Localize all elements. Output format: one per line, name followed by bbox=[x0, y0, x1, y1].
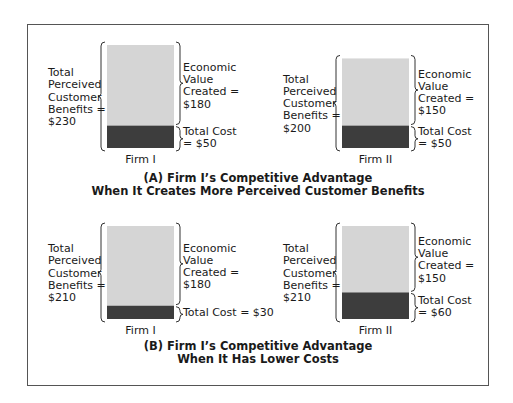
panel-b-firm-2-benefits-label: Customer bbox=[283, 267, 337, 280]
panel-b-firm-2-total-cost-label: = $60 bbox=[418, 306, 452, 319]
panel-a-caption-line1: (A) Firm I’s Competitive Advantage bbox=[144, 171, 373, 185]
panel-b-firm-1-value-created-label: Created = bbox=[183, 266, 239, 279]
panel-a-firm-2-value-created-label: $150 bbox=[418, 104, 446, 117]
panel-b-firm-2-value-created-bar bbox=[342, 226, 409, 292]
panel-b-firm-1-benefits-label: Benefits = bbox=[48, 279, 106, 292]
panel-b-firm-2-value-created-label: Value bbox=[418, 247, 448, 260]
panel-b-firm-2-value-created-label: Economic bbox=[418, 235, 471, 248]
panel-b-firm-2-value-created-label: Created = bbox=[418, 259, 474, 272]
panel-b-firm-1-benefits-label: $210 bbox=[48, 291, 76, 304]
panel-a-firm-2-value-brace bbox=[411, 55, 418, 124]
panel-a-firm-1-label: Firm I bbox=[125, 153, 155, 166]
panel-a-firm-1-benefits-label: $230 bbox=[48, 115, 76, 128]
panel-b-firm-2-value-created-label: $150 bbox=[418, 272, 446, 285]
panel-a-firm-1-total-cost-label: = $50 bbox=[183, 137, 217, 150]
panel-a-firm-1-total-cost-bar bbox=[107, 126, 174, 148]
panel-a-firm-2-total-cost-label: Total Cost bbox=[417, 125, 472, 138]
panel-a-firm-1-value-created-label: Economic bbox=[183, 61, 236, 74]
panel-b-firm-2-benefits-label: Perceived bbox=[283, 254, 336, 267]
panel-a-firm-2-total-cost-label: = $50 bbox=[418, 137, 452, 150]
panel-b-firm-2-benefits-label: $210 bbox=[283, 291, 311, 304]
panel-b-caption-line1: (B) Firm I’s Competitive Advantage bbox=[144, 339, 373, 353]
panel-a-firm-1-value-created-label: Created = bbox=[183, 85, 239, 98]
panel-a-firm-2-label: Firm II bbox=[359, 153, 393, 166]
panel-b-firm-1-value-created-label: $180 bbox=[183, 278, 211, 291]
panel-b-firm-1-total-cost-label: Total Cost = $30 bbox=[182, 306, 274, 319]
panel-b-firm-2-benefits-label: Total bbox=[282, 242, 309, 255]
panel-a-firm-1-benefits-label: Total bbox=[47, 66, 74, 79]
panel-b-firm-1-benefits-label: Perceived bbox=[48, 254, 101, 267]
panel-b-firm-1-benefits-label: Total bbox=[47, 242, 74, 255]
panel-a-firm-2-cost-brace bbox=[411, 127, 418, 151]
panel-b-caption-line2: When It Has Lower Costs bbox=[177, 352, 339, 366]
panel-b-firm-2-value-brace bbox=[411, 223, 418, 291]
panel-a-firm-2-value-created-bar bbox=[342, 58, 409, 125]
panel-b-firm-1-cost-brace bbox=[176, 307, 183, 322]
panel-a-firm-2-benefits-label: Total bbox=[282, 73, 309, 86]
panel-a-firm-1-benefits-label: Benefits = bbox=[48, 103, 106, 116]
panel-b-firm-2-total-cost-bar bbox=[342, 292, 409, 319]
panel-a-firm-2-value-created-label: Value bbox=[418, 80, 448, 93]
panel-a-firm-2-benefits-label: Perceived bbox=[283, 85, 336, 98]
panel-a-firm-1-cost-brace bbox=[176, 127, 183, 151]
panel-a-caption-line2: When It Creates More Perceived Customer … bbox=[91, 184, 424, 198]
panel-a-firm-2-benefits-label: $200 bbox=[283, 122, 311, 135]
panel-b-firm-1-total-cost-bar bbox=[107, 306, 174, 319]
panel-b-firm-1-value-created-label: Value bbox=[183, 254, 213, 267]
panel-b-firm-2-benefits-label: Benefits = bbox=[283, 279, 341, 292]
panel-a-firm-2-benefits-label: Benefits = bbox=[283, 109, 341, 122]
panel-b-firm-1-benefits-label: Customer bbox=[48, 267, 102, 280]
panel-a-firm-2-benefits-label: Customer bbox=[283, 97, 337, 110]
panel-b-firm-1-value-brace bbox=[176, 223, 183, 305]
panel-b-firm-1-value-created-label: Economic bbox=[183, 242, 236, 255]
panel-a-firm-2-total-cost-bar bbox=[342, 126, 409, 148]
panel-a-firm-1-total-cost-label: Total Cost bbox=[182, 125, 237, 138]
panel-a-firm-1-value-created-label: Value bbox=[183, 73, 213, 86]
panel-a-firm-1-benefits-label: Perceived bbox=[48, 78, 101, 91]
panel-b-firm-1-label: Firm I bbox=[125, 324, 155, 337]
panel-a-firm-2-value-created-label: Created = bbox=[418, 92, 474, 105]
panel-b-firm-2-cost-brace bbox=[411, 293, 418, 322]
panel-a-firm-2-value-created-label: Economic bbox=[418, 68, 471, 81]
panel-b-firm-2-total-cost-label: Total Cost bbox=[417, 294, 472, 307]
panel-b-firm-1-value-created-bar bbox=[107, 226, 174, 306]
panel-a-firm-1-value-created-bar bbox=[107, 45, 174, 126]
panel-a-firm-1-value-brace bbox=[176, 42, 183, 125]
panel-a-firm-1-value-created-label: $180 bbox=[183, 98, 211, 111]
panel-b-firm-2-label: Firm II bbox=[359, 324, 393, 337]
competitive-advantage-diagram: Firm ITotalPerceivedCustomerBenefits =$2… bbox=[0, 0, 513, 403]
panel-a-firm-1-benefits-label: Customer bbox=[48, 91, 102, 104]
